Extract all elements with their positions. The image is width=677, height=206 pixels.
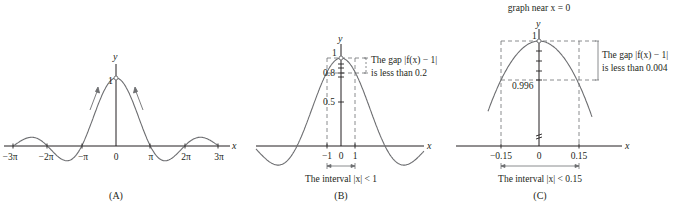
- x-tick-label: 2π: [181, 152, 191, 162]
- x-tick-label: −3π: [3, 152, 18, 162]
- hole-point: [114, 76, 118, 80]
- hole-point: [339, 56, 343, 60]
- parabola-curve: [488, 41, 592, 117]
- x-tick-label: −2π: [39, 152, 54, 162]
- x-axis-label: x: [426, 140, 432, 151]
- x-axis-label: x: [231, 140, 237, 151]
- y-tick-label: 1: [532, 31, 537, 41]
- x-tick-label: 1: [353, 151, 358, 161]
- x-tick-label: π: [149, 152, 154, 162]
- interval-arrow: [501, 163, 579, 169]
- x-axis-label: x: [624, 140, 630, 151]
- x-tick-label: 3π: [214, 152, 224, 162]
- panel-label: (C): [533, 190, 546, 202]
- panel-c: graph near x = 0 y x 1 0.996 −0.15: [456, 3, 668, 202]
- interval-note: The interval |x| < 1: [305, 174, 377, 184]
- panel-a: y x 1 −3π −2π −π 0 π 2π 3π (A): [3, 51, 237, 202]
- panel-b: y x 1 0.8 0.5 −1 0 1 The gap |f(x) − 1| …: [256, 33, 437, 202]
- x-tick-label: 0: [537, 151, 542, 161]
- y-tick-label: 0.8: [323, 68, 335, 78]
- y-tick-label: 0.5: [323, 97, 335, 107]
- gap-note-line1: The gap |f(x) − 1|: [602, 50, 668, 61]
- x-tick-label: −π: [78, 152, 88, 162]
- x-tick-label: 0: [114, 152, 119, 162]
- y-axis-label: y: [535, 18, 541, 29]
- y-tick-label: 0.996: [512, 81, 534, 91]
- x-tick-label: 0.15: [571, 151, 588, 161]
- gap-note-line1: The gap |f(x) − 1|: [371, 55, 437, 66]
- peak-label: 1: [108, 75, 113, 86]
- x-tick-label: 0: [339, 151, 344, 161]
- gap-note-line2: is less than 0.004: [602, 63, 668, 73]
- gap-note-line2: is less than 0.2: [371, 68, 427, 78]
- x-tick-label: −0.15: [490, 151, 512, 161]
- panel-label: (A): [109, 190, 123, 202]
- x-tick-label: −1: [322, 151, 332, 161]
- interval-note: The interval |x| < 0.15: [498, 174, 582, 184]
- panel-label: (B): [334, 190, 347, 202]
- gap-bracket: [595, 41, 599, 80]
- panel-title: graph near x = 0: [508, 3, 571, 13]
- hole-point: [537, 39, 541, 43]
- y-tick-label: 1: [332, 48, 337, 58]
- y-ticks: [501, 51, 579, 149]
- y-axis-label: y: [337, 33, 343, 44]
- interval-arrow: [327, 163, 355, 169]
- gap-bracket: [364, 58, 368, 73]
- figure-canvas: y x 1 −3π −2π −π 0 π 2π 3π (A): [0, 0, 677, 206]
- y-axis-label: y: [112, 51, 118, 62]
